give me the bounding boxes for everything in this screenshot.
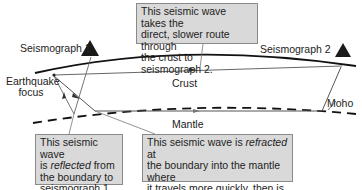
refracted-callout-line3: it travels more quickly, then is [147, 183, 288, 190]
crust-label: Crust [172, 78, 197, 89]
refracted-wave-callout: This seismic wave is refracted at the bo… [142, 134, 293, 182]
direct-wave-callout: This seismic wave takes the direct, slow… [136, 3, 258, 44]
seismograph-2-label: Seismograph 2 [260, 44, 331, 55]
refracted-line1-pre: This seismic wave is [147, 136, 246, 148]
direct-callout-line3: the crust to seismograph 2. [141, 52, 253, 75]
mantle-wave-arrow-icon [193, 109, 200, 113]
reflected-line2-post: from [91, 159, 115, 171]
refracted-emphasis: refracted [246, 136, 287, 148]
refracted-wave-arrow-icon [72, 93, 80, 99]
direct-callout-line2: direct, slower route through [141, 29, 253, 52]
refracted-callout-leader [95, 111, 155, 134]
reflected-line2-pre: is [40, 159, 51, 171]
reflected-callout-line2: is reflected from [40, 160, 118, 172]
refracted-callout-line2: the boundary into the mantle where [147, 160, 288, 183]
refracted-callout-line1: This seismic wave is refracted at [147, 137, 288, 160]
moho-label: Moho [327, 98, 353, 109]
seismograph-1-label: Seismograph 1 [20, 43, 91, 54]
seismograph-2-triangle-icon [335, 43, 351, 57]
reflected-callout-line1: This seismic wave [40, 137, 118, 160]
reflected-wave-callout: This seismic wave is reflected from the … [35, 134, 123, 185]
direct-callout-line1: This seismic wave takes the [141, 6, 253, 29]
earthquake-focus-label-line2: focus [6, 87, 56, 98]
refracted-line1-post: at [147, 148, 156, 160]
mantle-label: Mantle [172, 119, 204, 130]
earthquake-focus-label: Earthquake focus [6, 76, 56, 98]
reflected-callout-line4: seismograph 1. [40, 183, 118, 190]
reflected-emphasis: reflected [51, 159, 91, 171]
